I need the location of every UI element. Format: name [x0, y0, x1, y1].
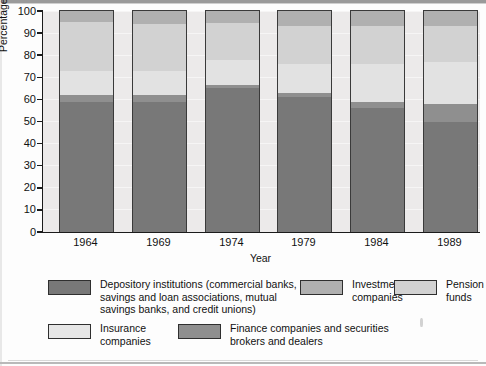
bar-segment-finance[interactable]	[423, 103, 478, 122]
y-axis-tick-label: 70	[24, 72, 36, 83]
bar-segment-insurance[interactable]	[132, 70, 187, 95]
y-axis-tick	[37, 54, 43, 56]
bar-segment-depository[interactable]	[59, 101, 114, 232]
legend-swatch-investment	[300, 280, 343, 295]
x-axis-tick-label-1964: 1964	[58, 236, 113, 248]
y-axis-tick-label: 20	[24, 182, 36, 193]
y-axis-tick	[37, 187, 43, 189]
bar-segment-investment[interactable]	[277, 10, 332, 26]
legend-label-pension: Pensionfunds	[446, 278, 484, 303]
bar-segment-depository[interactable]	[277, 96, 332, 232]
y-axis-tick-label: 30	[24, 160, 36, 171]
legend-label-depository: Depository institutions (commercial bank…	[100, 278, 297, 316]
legend-label-insurance: Insurancecompanies	[100, 322, 151, 347]
bar-segment-investment[interactable]	[132, 10, 187, 24]
bar-segment-pension[interactable]	[277, 25, 332, 64]
y-axis-tick-label: 100	[18, 6, 36, 17]
y-axis-tick-label: 60	[24, 94, 36, 105]
legend-label-finance: Finance companies and securitiesbrokers …	[230, 322, 389, 347]
y-axis-tick	[37, 231, 43, 233]
y-axis-tick-label: 90	[24, 28, 36, 39]
page-top-border-secondary	[0, 3, 486, 4]
y-axis-tick	[37, 165, 43, 167]
bar-segment-investment[interactable]	[205, 10, 260, 23]
legend-swatch-depository	[48, 280, 91, 295]
y-axis-tick-label: 40	[24, 138, 36, 149]
bar-segment-finance[interactable]	[350, 101, 405, 109]
legend-swatch-pension	[394, 280, 437, 295]
bar-segment-pension[interactable]	[423, 25, 478, 61]
x-axis-tick-label-1974: 1974	[204, 236, 259, 248]
bar-segment-depository[interactable]	[350, 107, 405, 232]
y-axis-tick	[37, 77, 43, 79]
y-axis-tick-label: 50	[24, 116, 36, 127]
x-axis-tick-label-1969: 1969	[131, 236, 186, 248]
bar-segment-investment[interactable]	[59, 10, 114, 22]
bar-segment-depository[interactable]	[132, 101, 187, 232]
chart-page: Percentage of Financial Assets 100908070…	[0, 0, 486, 366]
bar-segment-pension[interactable]	[59, 21, 114, 71]
y-axis-tick	[37, 121, 43, 123]
bar-segment-finance[interactable]	[132, 94, 187, 102]
y-axis-tick-labels: 1009080706050403020100	[0, 0, 40, 232]
y-axis-tick	[37, 99, 43, 101]
legend-swatch-finance	[178, 324, 221, 339]
x-axis-title: Year	[42, 252, 479, 264]
bar-segment-pension[interactable]	[350, 25, 405, 64]
x-axis-tick-label-1979: 1979	[276, 236, 331, 248]
bar-segment-pension[interactable]	[132, 23, 187, 70]
y-axis-tick	[37, 143, 43, 145]
x-axis-tick-labels: 196419691974197919841989	[42, 236, 479, 252]
scan-artifact	[420, 318, 423, 327]
x-axis-tick-label-1984: 1984	[349, 236, 404, 248]
bar-segment-investment[interactable]	[350, 10, 405, 26]
bar-segment-depository[interactable]	[205, 87, 260, 232]
bar-segment-insurance[interactable]	[277, 63, 332, 93]
legend-swatch-insurance	[48, 324, 91, 339]
bar-segment-depository[interactable]	[423, 121, 478, 233]
y-axis-tick-label: 0	[30, 227, 36, 238]
bar-segment-insurance[interactable]	[350, 63, 405, 102]
page-bottom-border	[0, 362, 486, 364]
legend-divider	[8, 360, 478, 361]
y-axis-tick	[37, 10, 43, 12]
bar-segment-insurance[interactable]	[205, 59, 260, 85]
y-axis-tick	[37, 32, 43, 34]
bar-segment-insurance[interactable]	[59, 70, 114, 95]
bar-segment-pension[interactable]	[205, 22, 260, 59]
plot-area	[42, 11, 480, 233]
bar-segment-insurance[interactable]	[423, 61, 478, 104]
y-axis-tick-label: 80	[24, 50, 36, 61]
x-axis-tick-label-1989: 1989	[422, 236, 477, 248]
bar-segment-finance[interactable]	[59, 94, 114, 102]
chart-legend: Depository institutions (commercial bank…	[0, 276, 486, 362]
y-axis-tick-label: 10	[24, 204, 36, 215]
y-axis-tick	[37, 209, 43, 211]
bar-segment-investment[interactable]	[423, 10, 478, 26]
